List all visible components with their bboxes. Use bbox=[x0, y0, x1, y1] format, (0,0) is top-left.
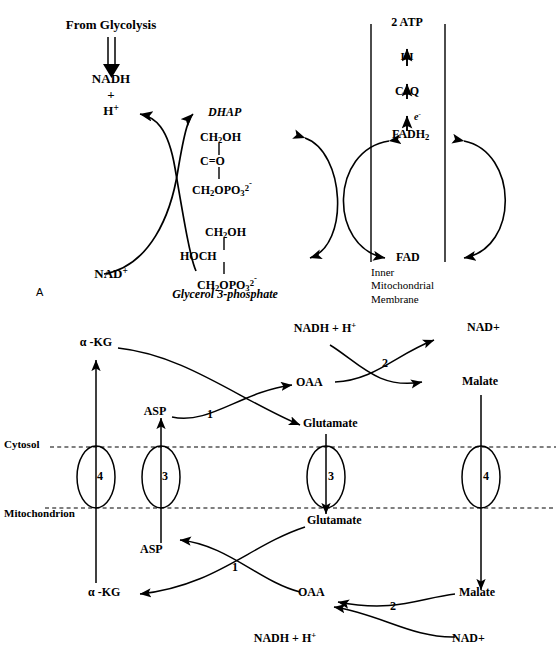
cytosol-label: Cytosol bbox=[4, 439, 39, 451]
fad-cycle-loop bbox=[343, 141, 505, 258]
inner-membrane-caption: Inner Mitochondrial Membrane bbox=[371, 266, 434, 306]
fad-label: FAD bbox=[396, 251, 420, 264]
proton-charge: + bbox=[113, 103, 118, 113]
proton-text: H bbox=[103, 103, 113, 118]
transporter-glutamate-mid-number: 3 bbox=[328, 470, 334, 483]
dhap-structure: CH2OH C=O CH2OPO32- bbox=[200, 130, 252, 199]
matrix-enzyme-1-label: 1 bbox=[232, 561, 238, 574]
panel-a-linework bbox=[103, 24, 505, 274]
transport-glutamate-mid bbox=[307, 434, 345, 514]
transport-akg-left bbox=[77, 360, 115, 583]
biochemistry-shuttle-figure: From Glycolysis NADH + H+ NAD+ DHAP CH2O… bbox=[0, 0, 556, 659]
membrane-boundaries bbox=[45, 447, 556, 508]
g3p-structure: CH2OH HOCH CH2OPO32- bbox=[205, 225, 257, 294]
g3p-line-1: CH2OH bbox=[205, 225, 257, 240]
cytosol-enzyme-1-label: 1 bbox=[207, 408, 213, 421]
fadh2-sub: 2 bbox=[425, 132, 429, 142]
g3p-line-2: HOCH bbox=[180, 249, 257, 264]
transporter-akg-left-number: 4 bbox=[97, 470, 103, 483]
matrix-transaminase-curves bbox=[140, 527, 305, 594]
membrane-caption-line-2: Mitochondrial bbox=[371, 279, 434, 292]
transporter-malate-right-number: 4 bbox=[483, 470, 489, 483]
matrix-akg-label: α -KG bbox=[88, 586, 120, 599]
atp-label: 2 ATP bbox=[391, 16, 422, 29]
dhap-label: DHAP bbox=[208, 106, 241, 119]
transport-asp-left bbox=[142, 418, 180, 543]
dhap-line-3: CH2OPO32- bbox=[192, 178, 252, 199]
proton-label: H+ bbox=[103, 104, 118, 118]
cytosol-nad-label: NAD+ bbox=[467, 321, 500, 334]
cytosol-akg-label: α -KG bbox=[80, 336, 112, 349]
membrane-caption-line-3: Membrane bbox=[371, 293, 434, 306]
cytosol-nadh-label: NADH + H+ bbox=[294, 321, 356, 334]
nad-charge: + bbox=[122, 266, 127, 276]
glycerol-3-phosphate-label: Glycerol 3-phosphate bbox=[172, 288, 278, 301]
electron-charge: - bbox=[418, 111, 420, 119]
nad-plus-label: NAD+ bbox=[94, 267, 128, 281]
cytosol-asp-label: ASP bbox=[144, 405, 167, 418]
matrix-nad-label: NAD+ bbox=[452, 632, 485, 645]
matrix-enzyme-2-label: 2 bbox=[390, 600, 396, 613]
cytosol-enzyme-2-label: 2 bbox=[382, 357, 388, 370]
dhap-line-2: C=O bbox=[200, 154, 252, 169]
panel-a-letter: A bbox=[36, 287, 43, 299]
matrix-oaa-label: OAA bbox=[298, 586, 325, 599]
matrix-malate-label: Malate bbox=[459, 586, 495, 599]
transport-malate-right bbox=[462, 395, 500, 590]
cytosol-glutamate-label: Glutamate bbox=[303, 417, 358, 430]
nadh-label: NADH bbox=[92, 72, 130, 86]
complex-three-label: III bbox=[401, 51, 414, 63]
cytosol-nadh-text: NADH + H bbox=[294, 321, 352, 335]
nad-text: NAD bbox=[94, 266, 122, 281]
dhap-line-1: CH2OH bbox=[200, 130, 252, 145]
coq-label: CoQ bbox=[395, 85, 419, 98]
cytosol-malate-label: Malate bbox=[462, 375, 498, 388]
cytosol-oaa-label: OAA bbox=[296, 376, 323, 389]
cytosol-nadh-charge: + bbox=[351, 320, 356, 330]
matrix-nadh-text: NADH + H bbox=[254, 631, 312, 645]
matrix-nadh-label: NADH + H+ bbox=[254, 631, 316, 644]
matrix-nadh-charge: + bbox=[311, 630, 316, 640]
from-glycolysis-label: From Glycolysis bbox=[66, 18, 156, 32]
fadh2-label: FADH2 bbox=[392, 128, 429, 142]
fadh2-text: FADH bbox=[392, 127, 425, 141]
mitochondrion-label: Mitochondrion bbox=[4, 508, 75, 520]
matrix-asp-label: ASP bbox=[140, 543, 163, 556]
electron-label: e- bbox=[414, 112, 421, 123]
transporter-asp-left-number: 3 bbox=[162, 470, 168, 483]
membrane-caption-line-1: Inner bbox=[371, 266, 434, 279]
matrix-glutamate-label: Glutamate bbox=[307, 514, 362, 527]
plus-sign-label: + bbox=[107, 88, 114, 102]
fad-left-arc bbox=[305, 138, 338, 258]
